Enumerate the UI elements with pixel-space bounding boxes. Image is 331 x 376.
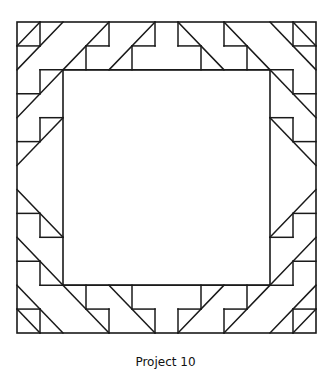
inner-square <box>63 70 270 285</box>
pattern-line-corner-br <box>293 309 316 333</box>
pattern-line-corner-bl <box>17 309 40 333</box>
pattern-line-corner-tl <box>17 22 40 46</box>
quilt-pattern-diagram <box>0 0 331 345</box>
figure-caption: Project 10 <box>0 355 331 369</box>
pattern-line-corner-tr <box>293 22 316 46</box>
outer-border <box>17 22 316 333</box>
pattern-segments <box>17 22 316 333</box>
